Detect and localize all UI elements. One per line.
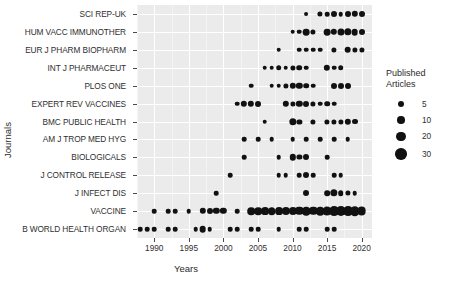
data-point bbox=[152, 209, 157, 214]
data-point bbox=[325, 12, 330, 17]
data-point bbox=[289, 82, 295, 88]
y-tick-label: J CONTROL RELEASE bbox=[40, 170, 126, 180]
data-point bbox=[359, 29, 365, 35]
data-point bbox=[235, 227, 240, 232]
data-point bbox=[359, 47, 364, 52]
plot-panel bbox=[137, 5, 372, 238]
data-point bbox=[249, 83, 254, 88]
data-point bbox=[248, 100, 254, 106]
data-point bbox=[332, 173, 337, 178]
data-point bbox=[290, 101, 295, 106]
y-tick-label: SCI REP-UK bbox=[80, 9, 126, 19]
data-point bbox=[332, 65, 337, 70]
x-tick-mark bbox=[362, 238, 363, 242]
data-point bbox=[345, 191, 350, 196]
data-point bbox=[207, 208, 213, 214]
data-point bbox=[303, 190, 309, 196]
data-point bbox=[289, 118, 296, 125]
data-point bbox=[269, 137, 274, 142]
data-point bbox=[249, 227, 254, 232]
data-point bbox=[303, 154, 309, 160]
gridline-horizontal bbox=[137, 139, 372, 140]
data-point bbox=[331, 29, 337, 35]
legend-item: 5 bbox=[386, 96, 453, 112]
data-point bbox=[283, 83, 288, 88]
data-point bbox=[332, 101, 337, 106]
legend-key-swatch bbox=[386, 145, 416, 164]
data-point bbox=[228, 173, 233, 178]
data-point bbox=[304, 137, 309, 142]
data-point bbox=[311, 119, 316, 124]
y-tick-label: AM J TROP MED HYG bbox=[43, 134, 126, 144]
x-tick-mark bbox=[327, 238, 328, 242]
data-point bbox=[352, 119, 358, 125]
data-point bbox=[242, 137, 247, 142]
gridline-horizontal bbox=[137, 175, 372, 176]
legend: Published Articles 5102030 bbox=[386, 68, 453, 163]
data-point bbox=[345, 11, 351, 17]
legend-label: 5 bbox=[422, 99, 427, 109]
data-point bbox=[166, 227, 171, 232]
data-point bbox=[220, 208, 226, 214]
data-point bbox=[304, 65, 309, 70]
data-point bbox=[276, 155, 281, 160]
data-point bbox=[318, 137, 323, 142]
y-tick-label: BIOLOGICALS bbox=[71, 152, 126, 162]
data-point bbox=[297, 48, 302, 53]
data-point bbox=[325, 155, 330, 160]
data-point bbox=[138, 227, 143, 232]
x-tick-label: 2005 bbox=[249, 243, 267, 253]
y-tick-label: HUM VACC IMMUNOTHER bbox=[25, 27, 126, 37]
data-point bbox=[304, 12, 308, 16]
data-point bbox=[318, 101, 323, 106]
data-point bbox=[339, 173, 344, 178]
data-point bbox=[352, 11, 358, 17]
data-point bbox=[338, 190, 344, 196]
data-point bbox=[297, 65, 303, 71]
data-point bbox=[332, 227, 337, 232]
data-point bbox=[297, 30, 302, 35]
y-tick-label: EXPERT REV VACCINES bbox=[32, 99, 126, 109]
data-point bbox=[338, 83, 344, 89]
legend-item: 20 bbox=[386, 128, 453, 145]
data-point bbox=[276, 65, 282, 71]
legend-item: 30 bbox=[386, 145, 453, 164]
data-point bbox=[290, 65, 295, 70]
data-point bbox=[241, 100, 247, 106]
data-point bbox=[311, 29, 316, 34]
data-point bbox=[276, 227, 281, 232]
data-point bbox=[296, 82, 302, 88]
legend-key-swatch bbox=[386, 112, 416, 128]
data-point bbox=[199, 226, 206, 233]
data-point bbox=[152, 227, 157, 232]
data-point bbox=[290, 137, 295, 142]
data-point bbox=[359, 11, 365, 17]
y-tick-label: J INFECT DIS bbox=[75, 188, 126, 198]
gridline-horizontal bbox=[137, 68, 372, 69]
data-point bbox=[331, 119, 336, 124]
y-tick-label: INT J PHARMACEUT bbox=[48, 63, 126, 73]
data-point bbox=[324, 29, 331, 36]
data-point bbox=[331, 83, 337, 89]
data-point bbox=[297, 119, 302, 124]
data-point bbox=[303, 172, 309, 178]
y-tick-label: EUR J PHARM BIOPHARM bbox=[25, 45, 126, 55]
x-tick-label: 1995 bbox=[180, 243, 198, 253]
legend-dot bbox=[395, 148, 407, 160]
data-point bbox=[173, 209, 178, 214]
data-point bbox=[345, 83, 351, 89]
data-point bbox=[297, 173, 302, 178]
data-point bbox=[187, 209, 192, 214]
data-point bbox=[283, 65, 288, 70]
data-point bbox=[213, 208, 219, 214]
data-point bbox=[338, 119, 343, 124]
legend-title-line-1: Published bbox=[386, 68, 453, 79]
y-tick-label: BMC PUBLIC HEALTH bbox=[43, 117, 126, 127]
legend-key-swatch bbox=[386, 128, 416, 145]
data-point bbox=[345, 118, 351, 124]
x-tick-mark bbox=[258, 238, 259, 242]
data-point bbox=[303, 101, 309, 107]
data-point bbox=[296, 100, 302, 106]
x-tick-mark bbox=[293, 238, 294, 242]
x-tick-label: 2000 bbox=[214, 243, 232, 253]
